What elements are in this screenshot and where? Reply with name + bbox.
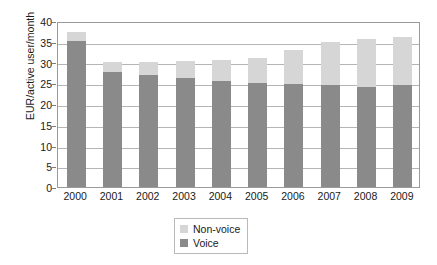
y-axis-tick-mark [52,147,56,148]
bar-segment-voice [212,81,231,187]
bar-segment-nonvoice [393,37,412,86]
y-axis-tick-mark [52,43,56,44]
y-axis-tick-label: 35 [32,38,52,49]
bar-segment-voice [248,83,267,187]
bar-segment-voice [139,75,158,187]
y-axis-tick-labels: 4035302520151050 [27,22,52,188]
bar-segment-voice [284,84,303,187]
x-axis-tick-label: 2009 [382,191,422,202]
bar-segment-nonvoice [67,32,86,40]
legend-item: Voice [180,236,240,250]
stacked-bar [212,21,231,187]
bar-segment-nonvoice [284,50,303,84]
legend-item-label: Voice [193,238,219,249]
y-axis-tick-label: 20 [32,100,52,111]
y-axis-tick-label: 10 [32,142,52,153]
bar-segment-voice [357,87,376,187]
bar-segment-voice [321,85,340,187]
stacked-bar [248,21,267,187]
x-axis-tick-label: 2006 [273,191,313,202]
stacked-bar [393,21,412,187]
y-axis-tick-mark [52,105,56,106]
x-axis-tick-label: 2003 [164,191,204,202]
bar-segment-voice [393,85,412,187]
y-axis-tick-label: 15 [32,121,52,132]
stacked-bar [139,21,158,187]
y-axis-tick-label: 5 [32,162,52,173]
stacked-bar [284,21,303,187]
bar-segment-nonvoice [248,58,267,84]
x-axis-tick-label: 2005 [237,191,277,202]
legend-swatch-icon [180,225,188,233]
legend-item: Non-voice [180,222,240,236]
y-axis-tick-mark [52,167,56,168]
stacked-bar [321,21,340,187]
y-axis-tick-label: 30 [32,59,52,70]
stacked-bar [103,21,122,187]
y-axis-tick-mark [52,22,56,23]
bar-segment-nonvoice [139,62,158,75]
y-axis-tick-label: 25 [32,79,52,90]
plot-area [57,22,420,188]
stacked-bar [357,21,376,187]
y-axis-tick-mark [52,126,56,127]
y-axis-tick-mark [52,188,56,189]
stacked-bar [176,21,195,187]
y-axis-tick-mark [52,63,56,64]
bar-segment-nonvoice [176,61,195,78]
y-axis-tick-mark [52,84,56,85]
bar-segment-voice [176,78,195,187]
legend-swatch-icon [180,239,188,247]
y-axis-tick-label: 40 [32,17,52,28]
x-axis-tick-label: 2004 [200,191,240,202]
bar-segment-voice [103,72,122,187]
x-axis-tick-label: 2008 [346,191,386,202]
x-axis-tick-label: 2001 [91,191,131,202]
x-axis-tick-labels: 2000200120022003200420052006200720082009 [57,191,420,207]
bar-segment-nonvoice [357,39,376,87]
stacked-bar [67,21,86,187]
bar-segment-nonvoice [212,60,231,82]
bar-segment-nonvoice [103,62,122,72]
y-axis-tick-label: 0 [32,183,52,194]
bar-segment-nonvoice [321,42,340,86]
chart-legend: Non-voiceVoice [174,218,248,254]
x-axis-tick-label: 2007 [309,191,349,202]
legend-item-label: Non-voice [193,224,240,235]
chart-figure: EUR/active user/month 4035302520151050 2… [0,0,437,265]
x-axis-tick-label: 2002 [128,191,168,202]
x-axis-tick-label: 2000 [55,191,95,202]
bar-segment-voice [67,41,86,187]
